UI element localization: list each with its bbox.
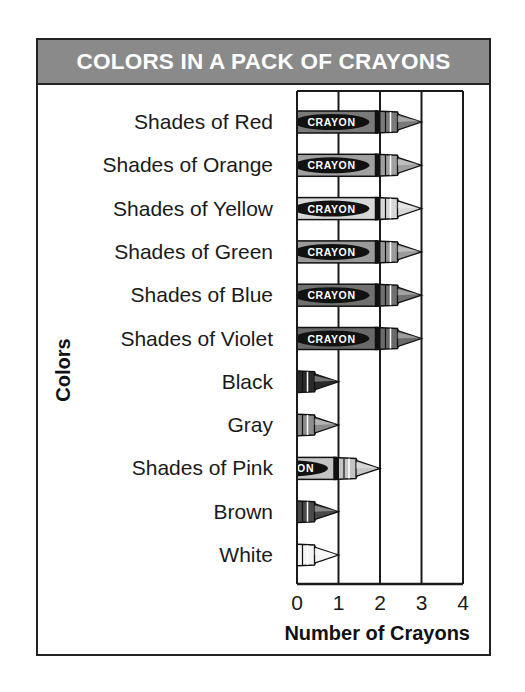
crayon-bar: CRAYON xyxy=(293,154,422,176)
crayon-pictograph-chart: CRAYONCRAYONCRAYONCRAYONCRAYONCRAYONCRAY… xyxy=(0,0,525,692)
x-axis-title: Number of Crayons xyxy=(284,622,470,644)
category-label: Shades of Orange xyxy=(103,153,273,176)
x-tick-label: 1 xyxy=(333,591,345,614)
category-label: Shades of Yellow xyxy=(113,197,274,220)
crayon-wrapper-label: CRAYON xyxy=(307,203,355,215)
crayon-bar xyxy=(293,544,339,566)
category-label: White xyxy=(219,543,273,566)
crayon-bar xyxy=(293,371,339,393)
category-label: Brown xyxy=(213,500,273,523)
crayon-wrapper-label: CRAYON xyxy=(307,289,355,301)
crayon-wrapper-label: CRAYON xyxy=(307,333,355,345)
crayon-wrapper-label: CRAYON xyxy=(307,116,355,128)
category-label: Shades of Green xyxy=(114,240,273,263)
x-axis-ticks: 01234 xyxy=(291,591,469,614)
crayon-bar xyxy=(293,501,339,523)
crayon-wrapper-label: CRAYON xyxy=(307,246,355,258)
crayon-bar: CRAYON xyxy=(293,241,422,263)
category-label: Shades of Red xyxy=(134,110,273,133)
category-label: Shades of Blue xyxy=(131,283,273,306)
crayon-bar xyxy=(293,414,339,436)
x-tick-label: 2 xyxy=(374,591,386,614)
x-tick-label: 4 xyxy=(457,591,469,614)
crayon-bar: CRAYON xyxy=(293,198,422,220)
x-tick-label: 3 xyxy=(416,591,428,614)
crayon-bars: CRAYONCRAYONCRAYONCRAYONCRAYONCRAYONCRAY… xyxy=(252,111,422,566)
category-label: Shades of Pink xyxy=(132,456,274,479)
category-labels: Shades of RedShades of OrangeShades of Y… xyxy=(103,110,274,566)
crayon-bar: CRAYON xyxy=(293,328,422,350)
crayon-wrapper-label: CRAYON xyxy=(307,159,355,171)
y-axis-title: Colors xyxy=(52,338,74,401)
crayon-bar: CRAYON xyxy=(293,111,422,133)
category-label: Shades of Violet xyxy=(120,327,273,350)
category-label: Black xyxy=(222,370,274,393)
x-tick-label: 0 xyxy=(291,591,303,614)
crayon-bar: CRAYON xyxy=(293,284,422,306)
category-label: Gray xyxy=(227,413,273,436)
crayon-wrapper-label: CRAYON xyxy=(266,462,314,474)
